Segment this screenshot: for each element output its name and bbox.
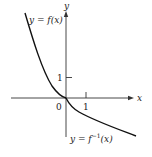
y-axis-arrow-icon	[64, 11, 68, 17]
x-axis-arrow-icon	[128, 96, 134, 100]
y-tick-label: 1	[57, 73, 63, 83]
f-inverse-label: y = f−1(x)	[69, 132, 113, 144]
origin-label: 0	[56, 102, 62, 112]
y-axis-label: y	[63, 1, 70, 11]
f-inverse-label-sup: −1	[92, 132, 101, 139]
curve-f-inverse	[66, 98, 136, 136]
x-tick-label: 1	[83, 102, 89, 112]
f-inverse-label-tail: (x)	[101, 134, 114, 144]
x-axis-label: x	[137, 93, 142, 103]
f-inverse-label-main: y = f	[69, 134, 93, 144]
f-label: y = f(x)	[28, 15, 63, 25]
curve-f	[25, 13, 66, 98]
function-inverse-graph: y x 0 1 1 y = f(x) y = f−1(x)	[0, 0, 152, 157]
